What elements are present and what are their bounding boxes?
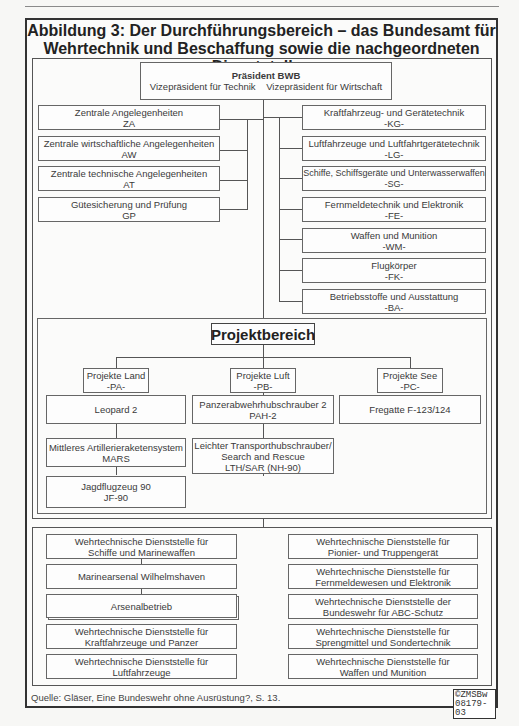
dienststelle-line2: Luftfahrzeuge	[112, 667, 170, 678]
department-name: Zentrale wirtschaftliche Angelegenheiten	[44, 138, 215, 149]
dienststelle-line2: Sprengmittel und Sondertechnik	[315, 637, 450, 648]
department-name: Waffen und Munition	[351, 230, 438, 241]
department-name: Betriebsstoffe und Ausstattung	[330, 291, 459, 302]
connector-right-lg	[279, 148, 303, 149]
project-name: Jagdflugzeug 90	[81, 481, 151, 492]
dienststelle-line2: Waffen und Munition	[340, 667, 427, 678]
department-gp: Gütesicherung und Prüfung GP	[38, 197, 220, 222]
group-name: Projekte See	[383, 370, 437, 381]
project-name: Leopard 2	[95, 404, 138, 415]
department-name: Fernmeldetechnik und Elektronik	[325, 199, 463, 210]
dienststelle-waffen-munition: Wehrtechnische Dienststelle für Waffen u…	[288, 654, 478, 679]
dienststelle-line2: Fernmeldewesen und Elektronik	[315, 577, 451, 588]
group-name: Projekte Land	[87, 370, 146, 381]
dienststelle-line1: Arsenalbetrieb	[111, 601, 172, 612]
connector-to-dienststellen	[263, 519, 264, 527]
connector-left-aw	[220, 150, 248, 151]
connector-left-gp	[220, 209, 248, 210]
department-name: Gütesicherung und Prüfung	[71, 199, 187, 210]
department-at: Zentrale technische Angelegenheiten AT	[38, 166, 220, 191]
dienststelle-luftfahrzeuge: Wehrtechnische Dienststelle für Luftfahr…	[46, 654, 237, 679]
vp-technik: Vizepräsident für Technik	[150, 81, 256, 92]
president-title: Präsident BWB	[232, 70, 301, 81]
project-fregatte: Fregatte F-123/124	[339, 395, 481, 424]
dienststelle-line2: Bundeswehr für ABC-Schutz	[323, 607, 443, 618]
dienststelle-fernmelde: Wehrtechnische Dienststelle für Fernmeld…	[288, 564, 478, 589]
department-fe: Fernmeldetechnik und Elektronik -FE-	[302, 197, 486, 222]
dienststelle-line1: Wehrtechnische Dienststelle für	[316, 656, 449, 667]
project-nh-90: Leichter Transporthubschrauber/ Search a…	[192, 438, 334, 474]
project-pah-2: Panzerabwehrhubschrauber 2 PAH-2	[192, 395, 334, 424]
department-code: GP	[122, 210, 136, 221]
department-wm: Waffen und Munition -WM-	[302, 228, 486, 253]
dienststelle-sprengmittel: Wehrtechnische Dienststelle für Sprengmi…	[288, 624, 478, 649]
dienststelle-abc-schutz: Wehrtechnische Dienststelle der Bundeswe…	[288, 594, 478, 619]
group-projekte-luft: Projekte Luft -PB-	[230, 368, 296, 393]
dienststelle-line2: Schiffe und Marinewaffen	[88, 547, 195, 558]
project-code: MARS	[102, 453, 129, 464]
department-code: -WM-	[382, 241, 405, 252]
dienststelle-line1: Wehrtechnische Dienststelle für	[316, 536, 449, 547]
project-code: JF-90	[104, 492, 128, 503]
connector-right-sg	[279, 178, 303, 179]
dienststelle-schiffe: Wehrtechnische Dienststelle für Schiffe …	[46, 534, 237, 559]
group-name: Projekte Luft	[236, 370, 289, 381]
dienststelle-kraftfahrzeuge: Wehrtechnische Dienststelle für Kraftfah…	[46, 624, 237, 649]
group-code: -PC-	[400, 381, 420, 392]
department-ba: Betriebsstoffe und Ausstattung -BA-	[302, 289, 486, 314]
dienststelle-pionier: Wehrtechnische Dienststelle für Pionier-…	[288, 534, 478, 559]
connector-right-fk	[279, 270, 303, 271]
department-kg: Kraftfahrzeug- und Gerätetechnik -KG-	[302, 105, 486, 130]
connector-left-top	[220, 119, 263, 120]
department-code: -BA-	[385, 302, 404, 313]
dienststelle-line1: Wehrtechnische Dienststelle für	[75, 656, 208, 667]
project-code: LTH/SAR (NH-90)	[225, 462, 301, 473]
department-name: Zentrale technische Angelegenheiten	[51, 168, 207, 179]
department-lg: Luftfahrzeuge und Luftfahrtgerätetechnik…	[302, 136, 486, 161]
department-code: ZA	[123, 118, 135, 129]
dienststelle-line2: Kraftfahrzeuge und Panzer	[85, 637, 199, 648]
project-name: Fregatte F-123/124	[369, 404, 450, 415]
connector-right-top	[263, 117, 303, 118]
page-header-rule	[25, 6, 499, 7]
department-name: Zentrale Angelegenheiten	[75, 107, 183, 118]
department-aw: Zentrale wirtschaftliche Angelegenheiten…	[38, 136, 220, 161]
dienststelle-line2: Pionier- und Truppengerät	[328, 547, 438, 558]
group-projekte-land: Projekte Land -PA-	[83, 368, 149, 393]
department-code: -FE-	[385, 210, 403, 221]
dienststelle-line1: Wehrtechnische Dienststelle für	[75, 626, 208, 637]
department-name: Luftfahrzeuge und Luftfahrtgerätetechnik	[308, 138, 479, 149]
figure-title-line1: Abbildung 3: Der Durchführungsbereich – …	[27, 22, 496, 40]
project-name: Panzerabwehrhubschrauber 2	[199, 399, 326, 410]
vp-wirtschaft: Vizepräsident für Wirtschaft	[266, 81, 382, 92]
connector-left-branch	[247, 119, 248, 209]
group-code: -PA-	[107, 381, 125, 392]
department-code: AT	[123, 179, 134, 190]
department-code: -KG-	[384, 118, 404, 129]
dienststelle-line1: Wehrtechnische Dienststelle für	[316, 566, 449, 577]
president-box: Präsident BWB Vizepräsident für Technik …	[140, 62, 392, 100]
department-name: Flugkörper	[371, 260, 416, 271]
department-code: -SG-	[385, 179, 404, 190]
project-mars: Mittleres Artillerieraketensystem MARS	[46, 438, 186, 467]
copyright-line2: 08179-03	[455, 700, 494, 718]
dienststelle-line1: Wehrtechnische Dienststelle der	[315, 596, 451, 607]
dienststelle-line1: Wehrtechnische Dienststelle für	[316, 626, 449, 637]
connector-trunk	[263, 100, 264, 319]
group-code: -PB-	[254, 381, 273, 392]
dienststelle-marinearsenal: Marinearsenal Wilhelmshaven	[46, 564, 237, 589]
department-name: Schiffe, Schiffsgeräte und Unterwasserwa…	[303, 168, 485, 179]
department-code: AW	[122, 149, 137, 160]
dienststelle-arsenalbetrieb: Arsenalbetrieb	[46, 594, 237, 618]
project-code: PAH-2	[249, 410, 276, 421]
copyright-stamp: ©ZMSBw 08179-03	[453, 689, 496, 719]
projektbereich-title-text: Projektbereich	[211, 329, 315, 340]
project-name: Mittleres Artillerieraketensystem	[49, 442, 183, 453]
projektbereich-title: Projektbereich	[211, 323, 315, 345]
connector-right-fe	[279, 209, 303, 210]
project-name-2: Search and Rescue	[221, 451, 304, 462]
department-fk: Flugkörper -FK-	[302, 258, 486, 283]
project-jf-90: Jagdflugzeug 90 JF-90	[46, 476, 186, 508]
department-za: Zentrale Angelegenheiten ZA	[38, 105, 220, 130]
project-leopard-2: Leopard 2	[46, 395, 186, 424]
